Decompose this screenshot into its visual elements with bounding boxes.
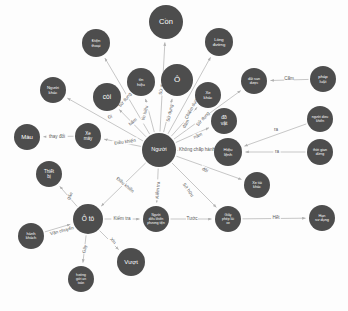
node-circle[interactable]	[161, 64, 193, 96]
node-circle[interactable]	[75, 123, 101, 149]
edge-label: gắn	[65, 190, 74, 200]
edge-label: Cấm	[284, 76, 294, 81]
edge-label: Sử dụng	[194, 110, 211, 127]
node-circle[interactable]	[82, 29, 110, 57]
node-circle[interactable]	[93, 83, 121, 111]
graph-node-mau[interactable]: Màu	[14, 124, 40, 150]
graph-node-dien-thoai[interactable]: Điệnthoại	[82, 29, 110, 57]
node-circle[interactable]	[117, 248, 145, 276]
node-circle[interactable]	[68, 266, 94, 292]
node-circle[interactable]	[149, 5, 183, 39]
node-circle[interactable]	[307, 139, 333, 165]
graph-node-phuong-tien[interactable]: Ngườiđiều khiểnphương tiện	[143, 206, 169, 232]
edge-label: Vận chuyển	[49, 224, 74, 236]
graph-node-hieu-lenh[interactable]: Hiệulệnh	[214, 138, 242, 166]
edge-label: Không chấp hành	[179, 147, 215, 152]
node-circle[interactable]	[14, 124, 40, 150]
network-diagram-canvas: Sử dụngSử dụngtín hiệuSử dụngChiếm dụngb…	[0, 0, 348, 311]
network-diagram-svg: Sử dụngSử dụngtín hiệuSử dụngChiếm dụngb…	[0, 0, 348, 311]
node-circle[interactable]	[142, 133, 176, 167]
node-circle[interactable]	[127, 68, 155, 96]
edge-label: ra	[274, 127, 279, 132]
graph-node-dat-san-duoc[interactable]: đất sanđược	[241, 68, 267, 94]
edge-label: Hết	[272, 215, 280, 220]
edge-label: ra	[275, 149, 280, 154]
edge-label: nằm	[192, 131, 203, 140]
node-circle[interactable]	[205, 28, 233, 56]
graph-node-nguoi-khac[interactable]: Ngườikhác	[40, 77, 66, 103]
graph-node-cam-node[interactable]: phápluật	[310, 66, 336, 92]
graph-node-tin-hieu[interactable]: tínhiệu	[127, 68, 155, 96]
graph-node-xe-may[interactable]: Xemáy	[75, 123, 101, 149]
graph-node-long-duong[interactable]: Lòngđường	[205, 28, 233, 56]
graph-node-thiet-bi[interactable]: Thiếtbị	[36, 161, 62, 187]
node-circle[interactable]	[214, 138, 242, 166]
graph-node-nguoi-dieu-khien[interactable]: người dieukhiển	[307, 106, 333, 132]
nodes-layer: CồnĐiệnthoạiLòngđườngtínhiệuÔXekháccòiđồ…	[14, 5, 336, 292]
graph-node-o-to[interactable]: Ô tô	[73, 204, 103, 234]
node-circle[interactable]	[215, 206, 241, 232]
graph-node-xe-tai-khac[interactable]: Xe tảikhác	[244, 172, 270, 198]
graph-node-hanh-khach[interactable]: hànhkhách	[18, 223, 44, 249]
node-circle[interactable]	[36, 161, 62, 187]
graph-node-xe-khac[interactable]: Xekhác	[195, 82, 221, 108]
node-circle[interactable]	[143, 206, 169, 232]
graph-node-con[interactable]: Cồn	[149, 5, 183, 39]
node-circle[interactable]	[241, 68, 267, 94]
node-circle[interactable]	[40, 77, 66, 103]
node-circle[interactable]	[244, 172, 270, 198]
edge-label: Kiểm tra	[113, 215, 131, 221]
graph-node-do-vat[interactable]: đồvật	[211, 108, 237, 134]
node-circle[interactable]	[211, 108, 237, 134]
graph-node-giay-phep[interactable]: Giấyphép láixe	[215, 206, 241, 232]
graph-node-coi[interactable]: còi	[93, 83, 121, 111]
node-circle[interactable]	[73, 204, 103, 234]
graph-node-o[interactable]: Ô	[161, 64, 193, 96]
node-circle[interactable]	[195, 82, 221, 108]
edge-label: thay đổi	[49, 133, 65, 139]
node-circle[interactable]	[307, 106, 333, 132]
edge-label: Tước	[186, 216, 198, 221]
node-circle[interactable]	[309, 205, 335, 231]
graph-node-han-su-dung[interactable]: Hạnsử dụng	[309, 205, 335, 231]
graph-node-nguoi[interactable]: Người	[142, 133, 176, 167]
node-circle[interactable]	[310, 66, 336, 92]
edge-label: Điều khiển	[115, 175, 136, 194]
graph-node-huong-di[interactable]: hướnggiới antoàn	[68, 266, 94, 292]
graph-node-thoi-gian[interactable]: thời giandừng	[307, 139, 333, 165]
graph-node-vuot[interactable]: Vượt	[117, 248, 145, 276]
node-circle[interactable]	[18, 223, 44, 249]
